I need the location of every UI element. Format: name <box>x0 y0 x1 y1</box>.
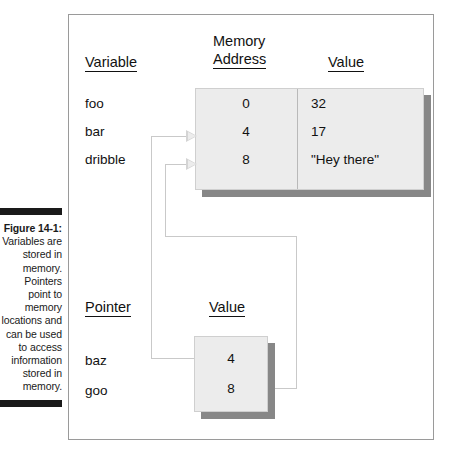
heading-pointer-value-label: Value <box>209 299 245 317</box>
variable-name-bar: bar <box>85 124 105 139</box>
heading-value: Value <box>328 54 364 70</box>
heading-pointer: Pointer <box>85 299 131 315</box>
memory-address-4: 4 <box>195 124 297 139</box>
memory-value-8: "Hey there" <box>311 152 379 167</box>
figure-container: Figure 14-1: Variables are stored in mem… <box>0 0 458 468</box>
heading-variable-label: Variable <box>85 54 137 72</box>
connector-baz-segment-v <box>151 136 152 359</box>
heading-pointer-label: Pointer <box>85 299 131 317</box>
caption-text: Figure 14-1: Variables are stored in mem… <box>0 222 62 394</box>
variable-name-foo: foo <box>85 96 104 111</box>
figure-caption-block: Figure 14-1: Variables are stored in mem… <box>0 208 62 407</box>
pointer-name-baz: baz <box>85 353 107 368</box>
heading-variable: Variable <box>85 54 137 70</box>
memory-table-column-divider <box>297 89 298 189</box>
pointer-value-goo: 8 <box>194 381 268 396</box>
heading-memory-line1: Memory <box>213 33 266 49</box>
figure-caption: Variables are stored in memory. Pointers… <box>1 235 62 392</box>
memory-value-4: 17 <box>311 124 326 139</box>
memory-address-0: 0 <box>195 96 297 111</box>
caption-bottom-rule <box>0 400 62 407</box>
memory-value-0: 32 <box>311 96 326 111</box>
variable-name-dribble: dribble <box>85 152 126 167</box>
heading-memory-address: Memory Address <box>213 33 266 69</box>
pointer-value-baz: 4 <box>194 351 268 366</box>
heading-memory-line2: Address <box>213 51 266 69</box>
connector-goo-segment-h2 <box>165 236 297 237</box>
connector-goo-segment-v2 <box>165 164 166 237</box>
caption-top-rule <box>0 208 62 215</box>
pointer-name-goo: goo <box>85 383 108 398</box>
figure-number: Figure 14-1: <box>0 222 62 235</box>
memory-address-8: 8 <box>195 152 297 167</box>
connector-goo-segment-v1 <box>296 236 297 389</box>
connector-baz-segment-h1 <box>151 358 195 359</box>
pointer-table <box>194 336 268 412</box>
heading-value-label: Value <box>328 54 364 72</box>
heading-pointer-value: Value <box>209 299 245 315</box>
